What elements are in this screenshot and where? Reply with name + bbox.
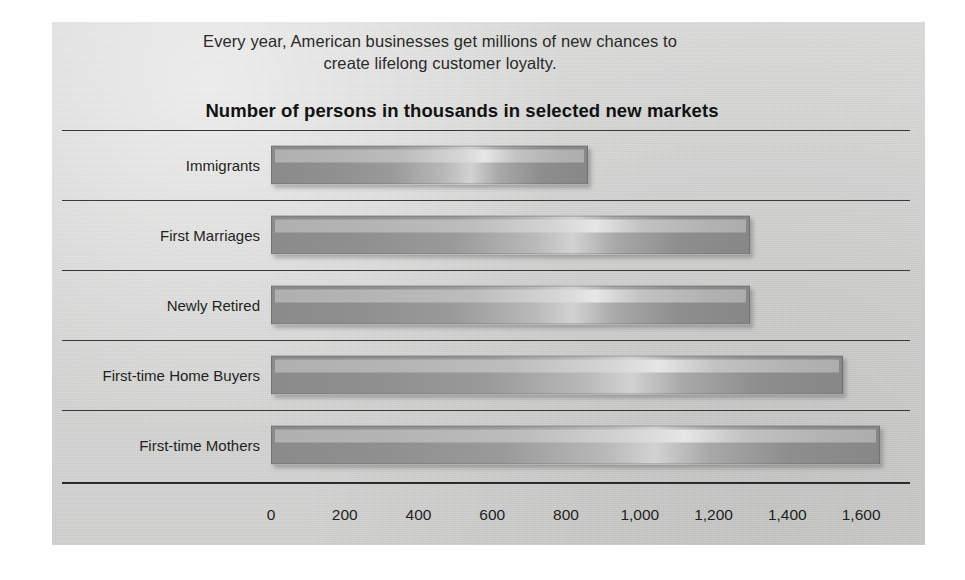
bar[interactable]: [271, 426, 880, 465]
plot-area: ImmigrantsFirst MarriagesNewly RetiredFi…: [62, 130, 912, 508]
chart-row: Newly Retired: [62, 270, 910, 340]
category-label: Immigrants: [62, 157, 260, 174]
x-tick-label: 1,600: [842, 506, 881, 524]
bar-track: [271, 286, 910, 325]
x-tick-label: 200: [332, 506, 358, 524]
category-label: Newly Retired: [62, 297, 260, 314]
bar-track: [271, 356, 910, 395]
x-tick-label: 1,400: [768, 506, 807, 524]
x-tick-label: 0: [267, 506, 276, 524]
bar-outline: [271, 356, 843, 395]
x-axis-tick-labels: 02004006008001,0001,2001,4001,600: [62, 506, 912, 536]
chart-row: First-time Home Buyers: [62, 340, 910, 410]
x-tick-label: 600: [479, 506, 505, 524]
x-tick-label: 800: [553, 506, 579, 524]
bar[interactable]: [271, 286, 750, 325]
bar-outline: [271, 426, 880, 465]
x-tick-label: 1,000: [620, 506, 659, 524]
category-label: First Marriages: [62, 227, 260, 244]
category-label: First-time Home Buyers: [62, 367, 260, 384]
chart-figure: Every year, American businesses get mill…: [0, 0, 965, 580]
x-axis-line: [62, 482, 910, 484]
chart-row: First-time Mothers: [62, 410, 910, 480]
bar-track: [271, 426, 910, 465]
x-tick-label: 1,200: [694, 506, 733, 524]
chart-subtitle: Every year, American businesses get mill…: [70, 30, 810, 74]
bar[interactable]: [271, 216, 750, 255]
chart-subtitle-line-1: Every year, American businesses get mill…: [203, 32, 677, 50]
chart-subtitle-line-2: create lifelong customer loyalty.: [70, 52, 810, 74]
bar-outline: [271, 146, 588, 185]
chart-title: Number of persons in thousands in select…: [62, 100, 862, 122]
bar-track: [271, 146, 910, 185]
x-tick-label: 400: [406, 506, 432, 524]
bar[interactable]: [271, 146, 588, 185]
bar[interactable]: [271, 356, 843, 395]
chart-row: Immigrants: [62, 130, 910, 200]
bar-outline: [271, 286, 750, 325]
bar-track: [271, 216, 910, 255]
chart-row: First Marriages: [62, 200, 910, 270]
bar-outline: [271, 216, 750, 255]
category-label: First-time Mothers: [62, 437, 260, 454]
